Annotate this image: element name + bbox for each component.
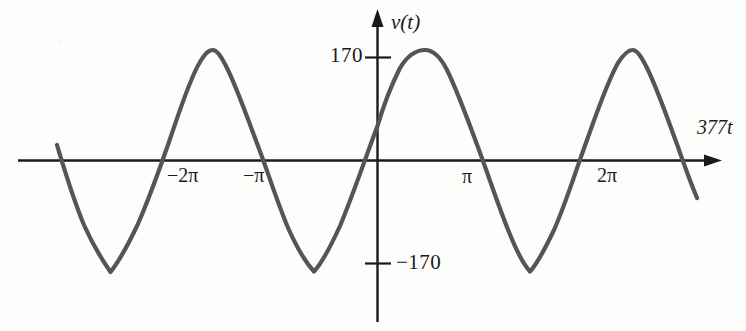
y-tick-label-minus-170: −170 (396, 252, 441, 273)
plot-canvas (0, 0, 746, 331)
y-axis (372, 9, 384, 322)
y-axis-label: v(t) (391, 12, 420, 33)
y-tick-label-170: 170 (330, 45, 363, 66)
x-axis-arrowhead (704, 155, 722, 167)
x-axis-label: 377t (697, 117, 733, 137)
x-tick-label-minus-2pi: −2π (167, 165, 198, 185)
x-tick-label-pi: π (462, 166, 472, 186)
x-tick-label-2pi: 2π (597, 165, 617, 185)
sinusoid-figure: v(t) 377t 170 −170 −2π −π π 2π (0, 0, 746, 331)
y-axis-arrowhead (372, 9, 384, 27)
x-tick-label-minus-pi: −π (243, 165, 264, 185)
